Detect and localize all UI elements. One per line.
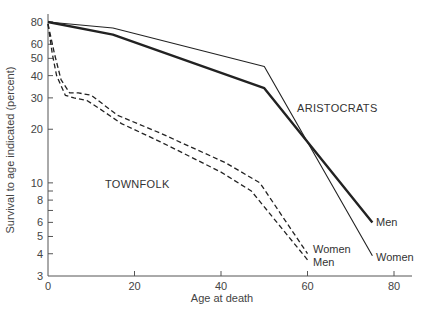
y-tick-label: 5	[37, 230, 43, 242]
x-tick-label: 40	[215, 280, 227, 292]
townfolk-men-label: Men	[313, 256, 334, 268]
y-tick-label: 4	[37, 248, 43, 260]
townfolk-label: TOWNFOLK	[105, 178, 170, 190]
aristocrats-women-line	[48, 22, 372, 256]
x-tick-label: 20	[128, 280, 140, 292]
aristocrats-women-label: Women	[376, 251, 414, 263]
series-lines	[48, 22, 372, 260]
townfolk-women-label: Women	[313, 243, 351, 255]
aristocrats-label: ARISTOCRATS	[297, 102, 378, 114]
y-tick-label: 20	[31, 123, 43, 135]
y-tick-label: 80	[31, 16, 43, 28]
y-axis-title: Survival to age indicated (percent)	[4, 67, 16, 234]
y-tick-label: 60	[31, 38, 43, 50]
y-tick-label: 30	[31, 92, 43, 104]
y-tick-label: 40	[31, 70, 43, 82]
y-tick-label: 10	[31, 177, 43, 189]
survival-chart: 3456810203040506080020406080 ARISTOCRATS…	[0, 0, 426, 323]
x-tick-label: 60	[301, 280, 313, 292]
y-tick-label: 50	[31, 52, 43, 64]
y-tick-label: 3	[37, 270, 43, 282]
y-tick-label: 8	[37, 194, 43, 206]
townfolk-men-line	[48, 24, 308, 260]
aristocrats-men-label: Men	[376, 216, 397, 228]
x-axis-title: Age at death	[191, 292, 253, 304]
y-tick-label: 6	[37, 216, 43, 228]
x-tick-label: 80	[388, 280, 400, 292]
aristocrats-men-line	[48, 22, 372, 222]
x-tick-label: 0	[45, 280, 51, 292]
